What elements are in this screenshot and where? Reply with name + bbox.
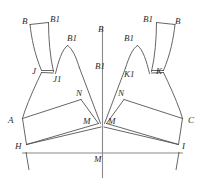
label-right-side-point: C	[188, 116, 194, 125]
left-side-seam-a-to-h	[23, 119, 27, 145]
label-right-strap-outer-top: B	[175, 17, 181, 26]
right-cup-outer-curve	[126, 46, 138, 69]
label-left-band-center: M	[83, 117, 91, 126]
left-band-top-edge	[23, 100, 82, 119]
left-strap-outer-edge	[30, 25, 42, 71]
label-right-notch-outer: K	[156, 67, 162, 76]
left-cup-peak-curve	[56, 46, 68, 74]
right-strap-inner-edge	[152, 23, 157, 72]
left-strap-top-edge	[30, 23, 49, 25]
right-strap-outer-edge	[164, 25, 176, 71]
label-center-axis-mid: B1	[95, 62, 105, 71]
hem-tick-left	[26, 152, 29, 170]
label-left-strap-inner-top: B1	[50, 15, 60, 24]
left-band-bottom-edge	[27, 124, 99, 145]
label-right-hem-point: I	[182, 142, 185, 151]
label-left-band-top: N	[76, 89, 82, 98]
left-outer-body-contour	[23, 73, 42, 119]
label-left-notch-inner: J1	[53, 75, 62, 84]
hem-tick-right	[176, 152, 179, 170]
label-right-band-top: N	[118, 89, 124, 98]
left-hem-closing-line	[27, 127, 102, 145]
right-outer-body-contour	[164, 73, 183, 119]
label-right-notch-inner: K1	[124, 70, 135, 79]
label-right-band-center: M	[108, 117, 116, 126]
left-pattern-piece	[23, 23, 102, 145]
label-left-cup-peak: B1	[67, 34, 77, 43]
right-strap-top-edge	[157, 23, 176, 25]
right-band-bottom-edge	[107, 124, 179, 145]
label-left-hem-point: H	[15, 142, 22, 151]
label-right-cup-peak: B1	[124, 34, 134, 43]
left-notch-tick-lower	[42, 73, 54, 74]
left-cup-outer-curve	[68, 46, 80, 69]
right-cup-peak-curve	[138, 46, 150, 74]
right-band-top-edge	[124, 100, 183, 119]
label-center-hem: M	[94, 155, 102, 164]
right-pattern-piece	[104, 23, 183, 145]
label-right-strap-inner-top: B1	[143, 15, 153, 24]
pattern-diagram: B B1 B1 J J1 N M A H B B1 M B1 B B1 K1 K…	[0, 0, 205, 185]
label-left-side-point: A	[8, 116, 14, 125]
label-left-notch-outer: J	[32, 67, 36, 76]
label-center-axis-top: B	[98, 25, 104, 34]
right-hem-closing-line	[104, 127, 179, 145]
left-strap-inner-edge	[49, 23, 54, 72]
label-left-strap-outer-top: B	[22, 17, 28, 26]
